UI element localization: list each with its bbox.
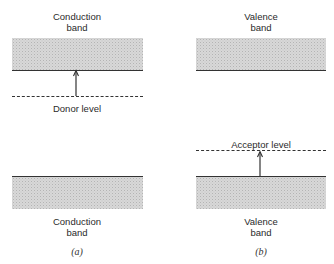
valence-band-top-b bbox=[196, 38, 326, 71]
conduction-band-top-a bbox=[12, 38, 143, 71]
top-band-label-b: Valence band bbox=[211, 11, 311, 33]
top-band-label-a: Conduction band bbox=[27, 11, 127, 33]
top-band-label-b-line1: Valence bbox=[211, 11, 311, 22]
bottom-band-label-b-line2: band bbox=[211, 227, 311, 238]
valence-band-bottom-b bbox=[196, 176, 326, 209]
arrow-up-icon-b bbox=[255, 150, 265, 178]
donor-level-line bbox=[12, 96, 143, 97]
bottom-band-label-a: Conduction band bbox=[27, 216, 127, 238]
bottom-band-label-b: Valence band bbox=[211, 216, 311, 238]
conduction-band-bottom-a bbox=[12, 176, 143, 209]
bottom-band-label-a-line1: Conduction bbox=[27, 216, 127, 227]
top-band-label-b-line2: band bbox=[211, 22, 311, 33]
bottom-band-label-b-line1: Valence bbox=[211, 216, 311, 227]
bottom-band-label-a-line2: band bbox=[27, 227, 127, 238]
acceptor-level-label: Acceptor level bbox=[201, 139, 321, 150]
donor-level-label: Donor level bbox=[27, 103, 127, 114]
caption-b: (b) bbox=[241, 246, 281, 257]
caption-a: (a) bbox=[57, 246, 97, 257]
arrow-up-icon-a bbox=[71, 69, 81, 99]
top-band-label-a-line2: band bbox=[27, 22, 127, 33]
top-band-label-a-line1: Conduction bbox=[27, 11, 127, 22]
